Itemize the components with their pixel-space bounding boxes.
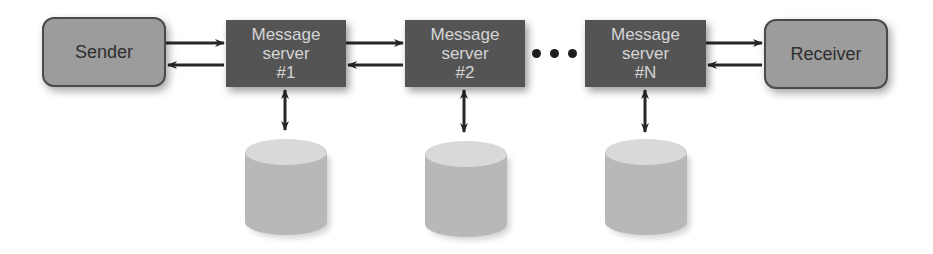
server-1-line2: server [262, 44, 309, 63]
message-server-1: Message server #1 [226, 20, 346, 87]
sender-node: Sender [42, 17, 166, 87]
server-2-line1: Message [431, 25, 500, 44]
server-1-line1: Message [252, 25, 321, 44]
ellipsis-dot [550, 49, 559, 58]
receiver-label: Receiver [790, 44, 861, 65]
server-2-line2: server [441, 44, 488, 63]
storage-cylinder-3 [605, 139, 690, 238]
message-queue-diagram: Sender Message server #1 Message server … [0, 0, 933, 254]
ellipsis-dot [568, 49, 577, 58]
server-2-line3: #2 [456, 63, 475, 82]
storage-cylinder-2 [425, 141, 510, 240]
receiver-node: Receiver [764, 19, 888, 89]
storage-cylinder-1 [245, 139, 330, 238]
sender-label: Sender [75, 42, 133, 63]
server-1-line3: #1 [277, 63, 296, 82]
message-server-n: Message server #N [585, 20, 706, 87]
server-n-line2: server [622, 44, 669, 63]
server-n-line1: Message [611, 25, 680, 44]
server-n-line3: #N [635, 63, 657, 82]
ellipsis-dot [532, 49, 541, 58]
message-server-2: Message server #2 [405, 20, 525, 87]
